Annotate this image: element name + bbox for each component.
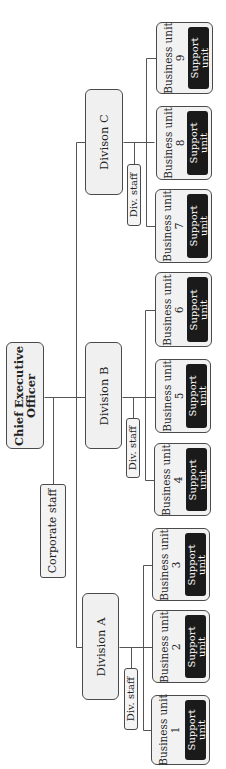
support-unit-label: Supportunit <box>189 38 208 79</box>
business-unit-box: Business unit7Supportunit <box>155 189 212 263</box>
business-unit-label-area: Business unit5 <box>158 360 188 432</box>
div-staff-box: Div. staff <box>126 418 140 478</box>
ceo-box: Chief Executive Officer <box>6 342 44 449</box>
div-staff-label: Div. staff <box>128 426 139 470</box>
division-box: Division B <box>85 342 122 449</box>
support-unit-label: Supportunit <box>188 289 207 330</box>
div-staff-box: Div. staff <box>124 668 138 730</box>
support-unit-label: Supportunit <box>188 206 207 247</box>
business-unit-box: Business unit1Supportunit <box>151 695 210 765</box>
support-unit-box: Supportunit <box>187 194 208 258</box>
support-unit-box: Supportunit <box>185 533 206 596</box>
support-unit-box: Supportunit <box>187 277 208 342</box>
division-label: Division B <box>97 366 109 425</box>
business-unit-label-area: Business unit2 <box>155 611 185 682</box>
business-unit-label-area: Business unit9 <box>159 23 189 93</box>
business-unit-number: 9 <box>174 22 186 93</box>
business-unit-box: Business unit3Supportunit <box>152 528 210 601</box>
business-unit-label: Business unit8 <box>162 107 186 178</box>
business-unit-number: 2 <box>170 611 182 682</box>
corporate-staff-box: Corporate staff <box>40 484 66 578</box>
business-unit-number: 5 <box>173 360 185 431</box>
business-unit-label: Business unit4 <box>160 444 184 515</box>
div-staff-label: Div. staff <box>126 677 137 721</box>
support-unit-box: Supportunit <box>188 27 209 89</box>
business-unit-label: Business unit3 <box>158 529 182 600</box>
business-unit-label-area: Business unit4 <box>157 444 187 515</box>
support-unit-box: Supportunit <box>187 111 208 175</box>
div-staff-box: Div. staff <box>127 164 141 226</box>
business-unit-number: 7 <box>173 190 185 261</box>
support-unit-label: Supportunit <box>186 544 205 585</box>
business-unit-label-area: Business unit1 <box>154 696 184 764</box>
division-label: Divison C <box>98 114 110 170</box>
division-box: Divison C <box>85 89 123 195</box>
support-unit-box: Supportunit <box>185 700 206 760</box>
business-unit-box: Business unit2Supportunit <box>152 610 210 683</box>
business-unit-number: 3 <box>170 529 182 600</box>
business-unit-label-area: Business unit8 <box>159 107 189 179</box>
business-unit-label: Business unit7 <box>161 190 185 261</box>
business-unit-label: Business unit2 <box>158 611 182 682</box>
support-unit-box: Supportunit <box>185 615 206 678</box>
business-unit-label: Business unit6 <box>161 274 185 345</box>
support-unit-box: Supportunit <box>186 364 207 428</box>
support-unit-label: Supportunit <box>186 626 205 667</box>
business-unit-number: 1 <box>169 694 181 765</box>
business-unit-label-area: Business unit7 <box>158 190 188 262</box>
business-unit-box: Business unit8Supportunit <box>156 106 212 180</box>
business-unit-label: Business unit1 <box>157 694 181 765</box>
business-unit-label: Business unit9 <box>162 22 186 93</box>
division-label: Division A <box>94 617 106 676</box>
business-unit-label-area: Business unit3 <box>155 529 185 600</box>
business-unit-box: Business unit4Supportunit <box>154 443 211 516</box>
corporate-staff-label: Corporate staff <box>47 489 59 574</box>
org-chart: Chief Executive Officer Corporate staff … <box>0 0 226 769</box>
business-unit-number: 8 <box>174 107 186 178</box>
support-unit-label: Supportunit <box>186 710 205 751</box>
business-unit-label: Business unit5 <box>161 360 185 431</box>
business-unit-box: Business unit9Supportunit <box>156 22 213 94</box>
support-unit-box: Supportunit <box>186 448 207 511</box>
business-unit-number: 6 <box>173 274 185 345</box>
business-unit-label-area: Business unit6 <box>158 273 188 346</box>
business-unit-box: Business unit5Supportunit <box>155 359 211 433</box>
division-box: Division A <box>82 593 119 700</box>
div-staff-label: Div. staff <box>129 173 140 217</box>
support-unit-label: Supportunit <box>188 123 207 164</box>
ceo-label: Chief Executive Officer <box>13 345 37 445</box>
support-unit-label: Supportunit <box>187 459 206 500</box>
business-unit-box: Business unit6Supportunit <box>155 272 212 347</box>
support-unit-label: Supportunit <box>187 376 206 417</box>
business-unit-number: 4 <box>172 444 184 515</box>
